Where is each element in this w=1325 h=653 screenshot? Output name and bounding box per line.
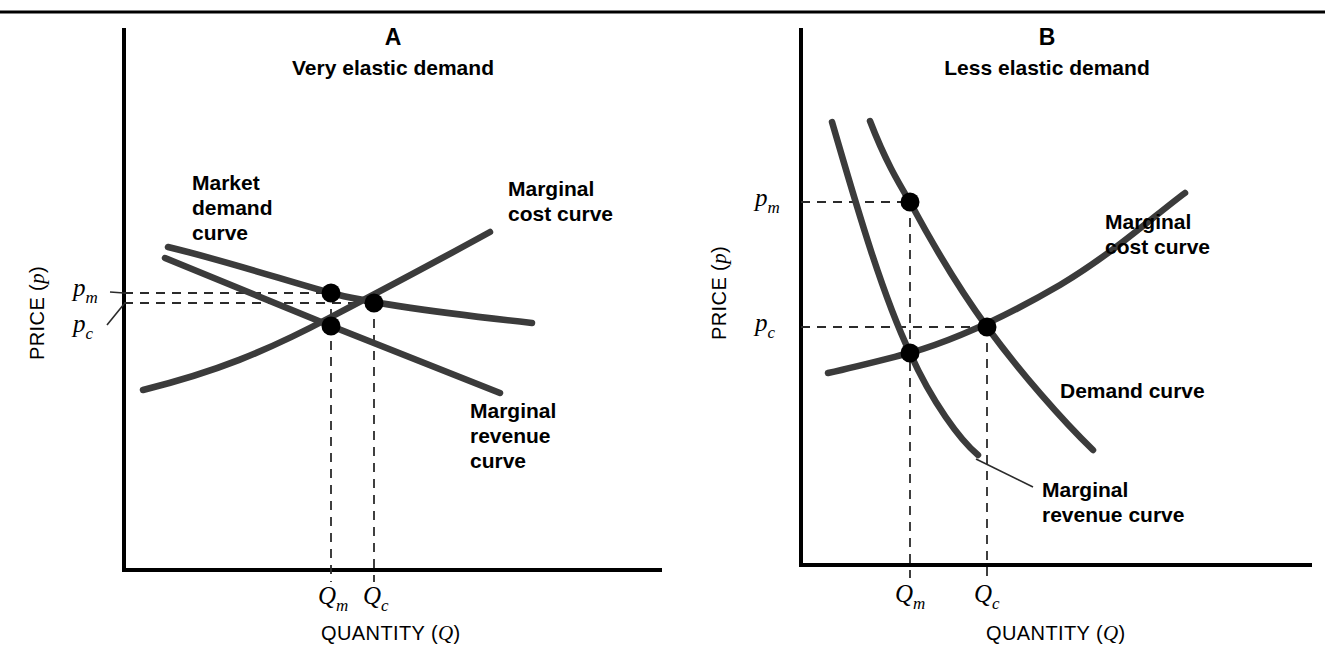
panel-a-quantity-label-qm: Qm bbox=[318, 582, 348, 615]
panel-a-pm-base: p bbox=[71, 274, 86, 301]
svg-text:PRICE (p): PRICE (p) bbox=[25, 266, 49, 360]
panel-b-subtitle: Less elastic demand bbox=[944, 56, 1149, 79]
panel-b-x-axis-title: QUANTITY (Q) bbox=[986, 621, 1126, 645]
panel-b-y-title-var: p bbox=[707, 253, 731, 266]
panel-b-qm-base: Q bbox=[895, 580, 913, 607]
panel-b-pc-base: p bbox=[753, 309, 768, 336]
panel-b-competitive-point bbox=[978, 318, 997, 337]
panel-a-letter: A bbox=[385, 24, 402, 50]
panel-b-mr-leader bbox=[976, 459, 1033, 487]
panel-a-quantity-label-qc: Qc bbox=[363, 582, 389, 615]
panel-a-marginal-revenue-label: Marginal revenue curve bbox=[470, 399, 562, 472]
panel-b-x-title-var: Q bbox=[1103, 621, 1119, 645]
panel-b-mr-line1: Marginal bbox=[1042, 478, 1128, 501]
panel-a-md-line3: curve bbox=[192, 221, 248, 244]
panel-b-marginal-revenue-label: Marginal revenue curve bbox=[1042, 478, 1184, 526]
panel-b-price-label-pm: pm bbox=[753, 184, 780, 217]
panel-b-y-axis-title: PRICE (p) bbox=[707, 246, 731, 340]
panel-b-qc-sub: c bbox=[992, 594, 1000, 613]
panel-b-y-title-pre: PRICE ( bbox=[708, 264, 730, 340]
panel-b-quantity-label-qm: Qm bbox=[895, 580, 925, 613]
panel-a-qc-base: Q bbox=[363, 582, 381, 609]
panel-b-demand-curve-label: Demand curve bbox=[1060, 379, 1205, 402]
economics-figure: A Very elastic demand PRICE (p) QUANTITY… bbox=[0, 0, 1325, 653]
panel-a-x-title-pre: QUANTITY ( bbox=[321, 622, 438, 644]
panel-a-pc-leader bbox=[107, 304, 124, 325]
panel-a-mc-line2: cost curve bbox=[508, 202, 613, 225]
panel-a-qm-base: Q bbox=[318, 582, 336, 609]
panel-a-mr-line2: revenue bbox=[470, 424, 551, 447]
panel-a-competitive-point bbox=[365, 294, 384, 313]
panel-b-price-label-pc: pc bbox=[753, 309, 776, 342]
panel-b-pc-sub: c bbox=[768, 323, 776, 342]
panel-a-subtitle: Very elastic demand bbox=[292, 56, 494, 79]
panel-b-mr-mc-point bbox=[901, 344, 920, 363]
panel-a-md-line2: demand bbox=[192, 196, 273, 219]
panel-a-price-label-pm: pm bbox=[71, 274, 98, 307]
panel-a-y-title-pre: PRICE ( bbox=[26, 284, 48, 360]
panel-a-y-title-var: p bbox=[25, 273, 49, 286]
panel-a-monopoly-point bbox=[322, 284, 341, 303]
panel-a-pm-leader bbox=[110, 292, 124, 293]
panel-b-mc-line1: Marginal bbox=[1105, 210, 1191, 233]
panel-b-marginal-revenue-curve bbox=[832, 122, 978, 455]
panel-a-pc-sub: c bbox=[86, 324, 94, 343]
panel-a-mr-line1: Marginal bbox=[470, 399, 556, 422]
panel-b-mc-line2: cost curve bbox=[1105, 235, 1210, 258]
panel-a-mr-line3: curve bbox=[470, 449, 526, 472]
panel-a-x-title-var: Q bbox=[438, 621, 454, 645]
panel-a-y-axis-title: PRICE (p) bbox=[25, 266, 49, 360]
panel-b-y-title-post: ) bbox=[708, 246, 730, 253]
panel-a-axes bbox=[124, 30, 660, 570]
panel-b-quantity-label-qc: Qc bbox=[974, 580, 1000, 613]
panel-b-x-title-pre: QUANTITY ( bbox=[986, 622, 1103, 644]
panel-b-qm-sub: m bbox=[913, 594, 925, 613]
panel-b-pm-base: p bbox=[753, 184, 768, 211]
panel-a-mc-line1: Marginal bbox=[508, 177, 594, 200]
panel-b-mr-line2: revenue curve bbox=[1042, 503, 1184, 526]
panel-a-pc-base: p bbox=[71, 310, 86, 337]
panel-a-market-demand-label: Market demand curve bbox=[192, 171, 278, 244]
panel-b-x-title-post: ) bbox=[1119, 622, 1126, 644]
panel-b-monopoly-point bbox=[901, 193, 920, 212]
panel-b-marginal-cost-label: Marginal cost curve bbox=[1105, 210, 1210, 258]
svg-text:PRICE (p): PRICE (p) bbox=[707, 246, 731, 340]
panel-a-y-title-post: ) bbox=[26, 266, 48, 273]
panel-a: A Very elastic demand PRICE (p) QUANTITY… bbox=[25, 24, 660, 645]
panel-a-qc-sub: c bbox=[381, 596, 389, 615]
panel-a-x-axis-title: QUANTITY (Q) bbox=[321, 621, 461, 645]
panel-a-marginal-cost-label: Marginal cost curve bbox=[508, 177, 613, 225]
panel-a-md-line1: Market bbox=[192, 171, 260, 194]
panel-b: B Less elastic demand PRICE (p) QUANTITY… bbox=[707, 24, 1310, 645]
panel-a-x-title-post: ) bbox=[454, 622, 461, 644]
panel-b-letter: B bbox=[1039, 24, 1056, 50]
panel-b-pm-sub: m bbox=[768, 198, 780, 217]
panel-a-pm-sub: m bbox=[86, 288, 98, 307]
panel-a-mr-mc-point bbox=[322, 317, 341, 336]
panel-a-price-label-pc: pc bbox=[71, 310, 94, 343]
panel-a-qm-sub: m bbox=[336, 596, 348, 615]
panel-b-qc-base: Q bbox=[974, 580, 992, 607]
